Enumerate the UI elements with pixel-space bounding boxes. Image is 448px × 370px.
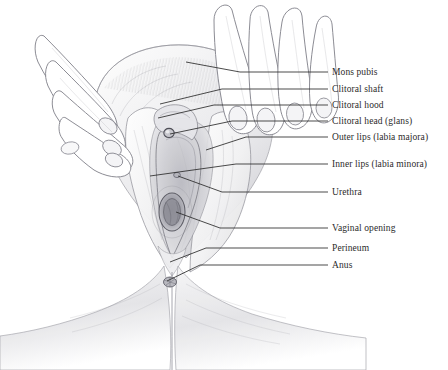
label-clitoral-shaft: Clitoral shaft <box>332 84 383 95</box>
anatomy-illustration <box>0 0 448 370</box>
label-anus: Anus <box>332 260 352 271</box>
label-urethra: Urethra <box>332 187 362 198</box>
label-perineum: Perineum <box>332 243 369 254</box>
label-clitoral-hood: Clitoral hood <box>332 100 384 111</box>
label-vaginal-opening: Vaginal opening <box>332 223 396 234</box>
label-clitoral-head-glans: Clitoral head (glans) <box>332 116 412 127</box>
buttocks-and-thighs <box>0 266 366 370</box>
label-outer-lips-labia-majora: Outer lips (labia majora) <box>332 132 428 143</box>
anatomy-diagram: Mons pubis Clitoral shaft Clitoral hood … <box>0 0 448 370</box>
right-hand-fingers <box>214 5 339 135</box>
label-mons-pubis: Mons pubis <box>332 67 378 78</box>
label-inner-lips-labia-minora: Inner lips (labia minora) <box>332 159 427 170</box>
fingernail <box>316 98 333 119</box>
